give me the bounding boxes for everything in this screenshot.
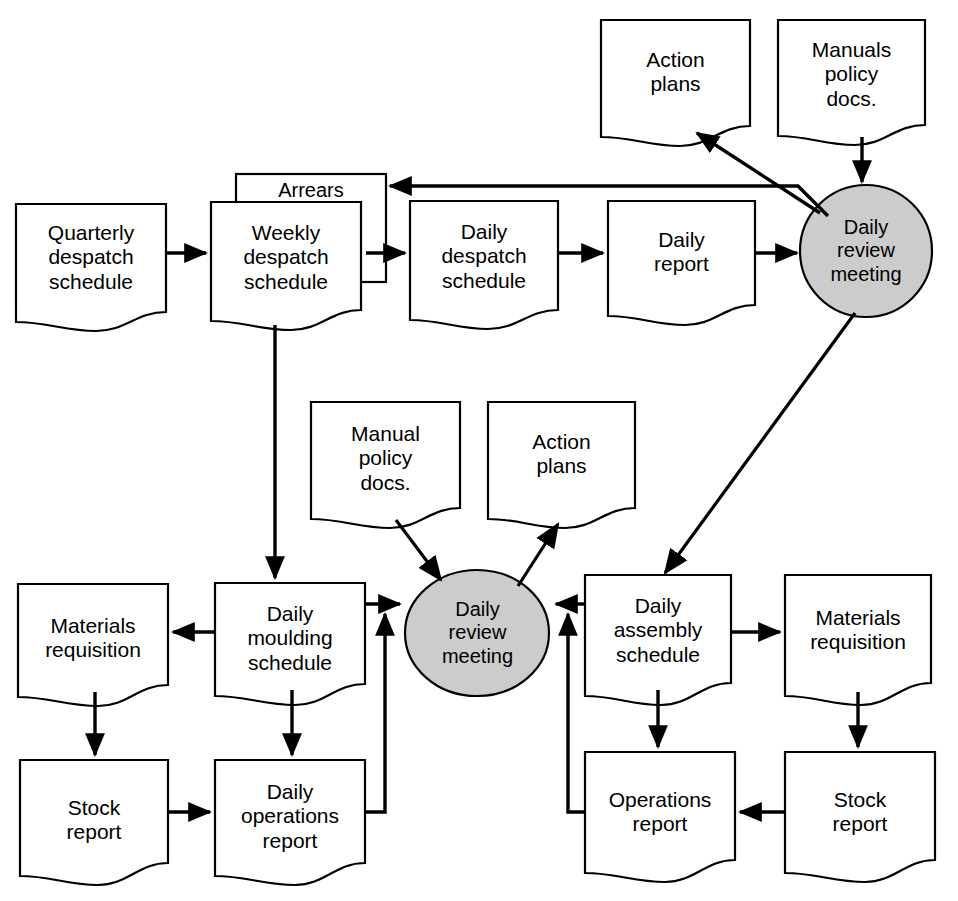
edge-meeting-top-to-daily-assembly <box>665 313 855 573</box>
node-weekly-despatch-schedule[interactable] <box>211 202 361 330</box>
edge-daily-operations-feedback <box>365 614 385 812</box>
node-quarterly-despatch-schedule[interactable] <box>16 204 166 331</box>
node-daily-operations-report[interactable] <box>215 760 365 885</box>
node-manual-policy-docs-mid[interactable] <box>311 402 460 528</box>
node-daily-review-meeting-bottom[interactable] <box>405 570 549 696</box>
edge-operations-feedback <box>568 614 585 812</box>
node-materials-requisition-right[interactable] <box>785 575 931 705</box>
node-manuals-policy-docs-top[interactable] <box>778 20 925 145</box>
node-daily-despatch-schedule[interactable] <box>410 201 558 329</box>
node-operations-report[interactable] <box>585 752 735 882</box>
diagram-canvas: Quarterly despatch schedule Arrears Week… <box>0 0 958 901</box>
node-stock-report-left[interactable] <box>20 760 168 885</box>
node-action-plans-mid[interactable] <box>488 402 635 528</box>
diagram-shapes-layer <box>0 0 958 901</box>
node-action-plans-top[interactable] <box>601 20 750 146</box>
node-daily-review-meeting-top[interactable] <box>800 185 932 317</box>
node-daily-report[interactable] <box>608 201 755 325</box>
node-materials-requisition-left[interactable] <box>18 584 168 706</box>
edge-manual-policy-to-meeting-bottom <box>396 520 441 580</box>
node-stock-report-right[interactable] <box>785 752 935 882</box>
node-daily-moulding-schedule[interactable] <box>215 583 365 705</box>
edge-meeting-bottom-to-action-plans <box>518 524 558 586</box>
node-daily-assembly-schedule[interactable] <box>585 575 731 705</box>
